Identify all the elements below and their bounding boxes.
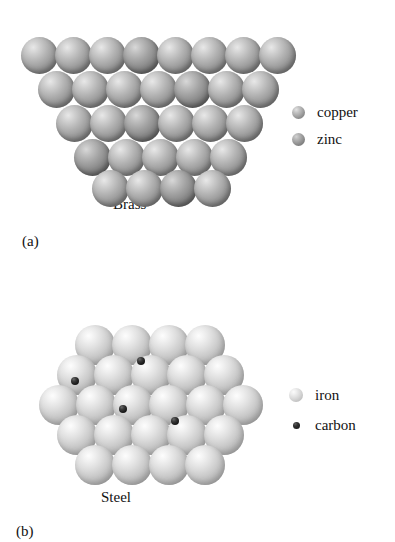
copper-atom bbox=[157, 37, 194, 74]
copper-atom bbox=[21, 37, 58, 74]
steel-caption: Steel bbox=[101, 489, 131, 506]
copper-atom bbox=[208, 71, 245, 108]
iron-atom bbox=[185, 445, 225, 485]
zinc-atom bbox=[123, 37, 160, 74]
brass-part-label: (a) bbox=[22, 233, 39, 250]
zinc-atom bbox=[124, 105, 161, 142]
copper-atom bbox=[194, 170, 231, 207]
copper-atom bbox=[192, 105, 229, 142]
carbon-atom bbox=[119, 405, 127, 413]
legend-label-carbon: carbon bbox=[315, 417, 356, 434]
steel-lattice bbox=[0, 271, 300, 486]
carbon-atom bbox=[137, 357, 145, 365]
carbon-dot-icon bbox=[286, 422, 306, 429]
figure-root: Brass (a) copper zinc Steel (b) bbox=[0, 0, 395, 542]
iron-atom bbox=[112, 445, 152, 485]
copper-atom bbox=[72, 71, 109, 108]
brass-legend: copper zinc bbox=[288, 101, 358, 150]
legend-label-zinc: zinc bbox=[317, 131, 342, 148]
copper-atom bbox=[226, 105, 263, 142]
copper-atom bbox=[90, 105, 127, 142]
panel-steel: Steel (b) iron carbon bbox=[0, 271, 395, 542]
iron-sphere-icon bbox=[286, 388, 306, 402]
copper-atom bbox=[191, 37, 228, 74]
copper-atom bbox=[38, 71, 75, 108]
brass-lattice bbox=[0, 0, 300, 215]
copper-atom bbox=[56, 105, 93, 142]
copper-atom bbox=[89, 37, 126, 74]
legend-row-zinc: zinc bbox=[288, 128, 358, 150]
carbon-atom bbox=[171, 417, 179, 425]
copper-atom bbox=[225, 37, 262, 74]
legend-row-carbon: carbon bbox=[286, 414, 356, 436]
copper-atom bbox=[106, 71, 143, 108]
iron-atom bbox=[149, 445, 189, 485]
steel-part-label: (b) bbox=[16, 523, 34, 540]
legend-row-iron: iron bbox=[286, 384, 356, 406]
iron-atom bbox=[75, 445, 115, 485]
copper-sphere-icon bbox=[288, 106, 308, 119]
zinc-sphere-icon bbox=[288, 133, 308, 146]
steel-legend: iron carbon bbox=[286, 384, 356, 436]
copper-atom bbox=[259, 37, 296, 74]
zinc-atom bbox=[174, 71, 211, 108]
copper-atom bbox=[55, 37, 92, 74]
copper-atom bbox=[140, 71, 177, 108]
copper-atom bbox=[158, 105, 195, 142]
legend-label-copper: copper bbox=[317, 104, 358, 121]
legend-label-iron: iron bbox=[315, 387, 339, 404]
copper-atom bbox=[242, 71, 279, 108]
panel-brass: Brass (a) copper zinc bbox=[0, 0, 395, 271]
zinc-atom bbox=[160, 170, 197, 207]
legend-row-copper: copper bbox=[288, 101, 358, 123]
copper-atom bbox=[92, 170, 129, 207]
carbon-atom bbox=[71, 377, 79, 385]
copper-atom bbox=[126, 170, 163, 207]
